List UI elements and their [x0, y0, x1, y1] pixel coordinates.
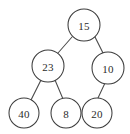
tree-node-left: 23	[32, 50, 64, 82]
tree-edge-15-23	[58, 37, 72, 53]
tree-node-label: 20	[91, 108, 103, 120]
tree-node-label: 10	[102, 63, 114, 75]
tree-node-label: 15	[78, 20, 90, 32]
binary-tree-diagram: 15 23 10 40 8 20	[0, 0, 130, 134]
tree-node-label: 23	[42, 61, 54, 73]
tree-canvas: 15 23 10 40 8 20	[0, 0, 130, 134]
tree-node-label: 40	[18, 108, 30, 120]
tree-node-left-left: 40	[9, 98, 39, 128]
tree-edge-23-8	[55, 80, 63, 99]
tree-edge-15-10	[95, 37, 103, 53]
tree-node-label: 8	[63, 108, 69, 120]
tree-node-right: 10	[92, 52, 124, 84]
tree-node-right-left: 20	[82, 98, 112, 128]
tree-edge-10-20	[98, 83, 105, 98]
tree-node-root: 15	[68, 9, 100, 41]
tree-edge-23-40	[31, 80, 41, 100]
tree-nodes: 15 23 10 40 8 20	[9, 9, 124, 128]
tree-node-left-right: 8	[51, 98, 81, 128]
